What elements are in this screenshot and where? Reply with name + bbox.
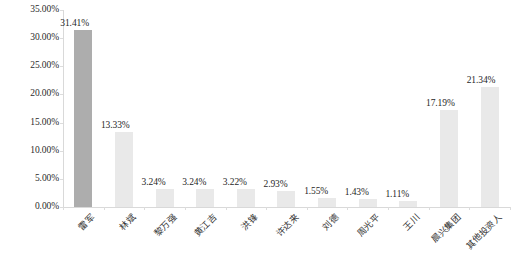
bar-value-label: 1.11% bbox=[385, 190, 409, 200]
bar-value-label: 21.34% bbox=[467, 76, 496, 86]
x-axis-tick-label: 晨兴集团 bbox=[431, 213, 463, 245]
bar-slot bbox=[388, 10, 429, 207]
bar[interactable] bbox=[115, 132, 133, 207]
bar-value-label: 1.43% bbox=[345, 188, 369, 198]
bar[interactable] bbox=[359, 199, 377, 207]
x-axis-tick bbox=[104, 207, 105, 210]
y-axis-tick-label: 0.00% bbox=[7, 202, 59, 212]
x-axis-tick bbox=[429, 207, 430, 210]
bar-value-label: 1.55% bbox=[304, 187, 328, 197]
bar-slot bbox=[469, 10, 510, 207]
y-axis-tick-label: 15.00% bbox=[7, 118, 59, 128]
bar[interactable] bbox=[481, 87, 499, 207]
x-axis-tick bbox=[144, 207, 145, 210]
x-axis-tick bbox=[63, 207, 64, 210]
x-axis-tick bbox=[185, 207, 186, 210]
bar-slot bbox=[104, 10, 145, 207]
bar[interactable] bbox=[440, 110, 458, 207]
x-axis-tick bbox=[266, 207, 267, 210]
bar-value-label: 17.19% bbox=[426, 99, 455, 109]
bar-value-label: 13.33% bbox=[101, 121, 130, 131]
y-axis: 0.00%5.00%10.00%15.00%20.00%25.00%30.00%… bbox=[3, 0, 59, 215]
y-axis-tick-label: 30.00% bbox=[7, 33, 59, 43]
y-axis-tick bbox=[60, 38, 63, 39]
bar-slot bbox=[307, 10, 348, 207]
bar[interactable] bbox=[318, 198, 336, 207]
x-axis-tick-label: 许达来 bbox=[274, 213, 300, 239]
x-axis-tick bbox=[510, 207, 511, 210]
y-axis-tick bbox=[60, 151, 63, 152]
y-axis-tick bbox=[60, 179, 63, 180]
y-axis-tick bbox=[60, 66, 63, 67]
x-axis-tick-label: 雷军 bbox=[78, 213, 97, 232]
bar[interactable] bbox=[74, 30, 92, 207]
bar-value-label: 2.93% bbox=[264, 180, 288, 190]
x-axis-tick-label: 周光平 bbox=[356, 213, 382, 239]
y-axis-tick-label: 35.00% bbox=[7, 5, 59, 15]
x-axis-tick-label: 洪锋 bbox=[240, 213, 259, 232]
x-axis-tick-label: 其他投资人 bbox=[465, 213, 503, 251]
y-axis-tick bbox=[60, 94, 63, 95]
bar[interactable] bbox=[196, 189, 214, 207]
x-axis-tick-label: 王川 bbox=[403, 213, 422, 232]
y-axis-tick-label: 25.00% bbox=[7, 61, 59, 71]
y-axis-tick-label: 5.00% bbox=[7, 174, 59, 184]
bar[interactable] bbox=[237, 189, 255, 207]
bar[interactable] bbox=[277, 191, 295, 207]
x-axis-tick-label: 林斌 bbox=[118, 213, 137, 232]
x-axis-tick bbox=[347, 207, 348, 210]
bar-slot bbox=[266, 10, 307, 207]
bar-value-label: 3.24% bbox=[182, 178, 206, 188]
y-axis-tick-label: 20.00% bbox=[7, 89, 59, 99]
x-axis-line bbox=[63, 207, 510, 208]
x-axis-tick-label: 刘德 bbox=[321, 213, 340, 232]
x-axis-tick bbox=[307, 207, 308, 210]
bar[interactable] bbox=[156, 189, 174, 207]
x-axis-labels: 雷军林斌黎万强黄江吉洪锋许达来刘德周光平王川晨兴集团其他投资人 bbox=[63, 209, 510, 275]
bar[interactable] bbox=[399, 201, 417, 207]
bar-value-label: 3.24% bbox=[142, 178, 166, 188]
bar-value-label: 31.41% bbox=[60, 19, 89, 29]
y-axis-tick bbox=[60, 123, 63, 124]
bar-value-label: 3.22% bbox=[223, 178, 247, 188]
bar-slot bbox=[63, 10, 104, 207]
x-axis-tick bbox=[388, 207, 389, 210]
x-axis-tick-label: 黎万强 bbox=[152, 213, 178, 239]
y-axis-tick bbox=[60, 10, 63, 11]
y-axis-tick-label: 10.00% bbox=[7, 146, 59, 156]
x-axis-tick-label: 黄江吉 bbox=[193, 213, 219, 239]
bar-slot bbox=[347, 10, 388, 207]
x-axis-tick bbox=[226, 207, 227, 210]
x-axis-tick bbox=[469, 207, 470, 210]
bar-chart: 0.00%5.00%10.00%15.00%20.00%25.00%30.00%… bbox=[0, 0, 514, 275]
